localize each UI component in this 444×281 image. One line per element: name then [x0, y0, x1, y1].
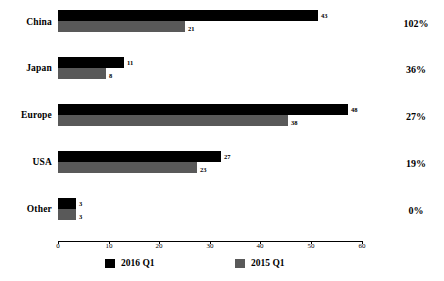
x-axis-tick-label-20: 20: [147, 242, 171, 250]
bar-usa-2016: [58, 151, 221, 162]
growth-percent-other: 0%: [392, 206, 440, 216]
bar-europe-2016: [58, 104, 348, 115]
bar-value-europe-2016: 48: [351, 106, 358, 113]
x-axis-tick-label-50: 50: [299, 242, 323, 250]
legend-item-2016-q1: 2016 Q1: [105, 258, 155, 268]
bar-value-usa-2015: 23: [200, 166, 207, 173]
bar-china-2016: [58, 10, 318, 21]
category-label-japan: Japan: [0, 63, 52, 73]
growth-percent-japan: 36%: [392, 65, 440, 75]
bar-usa-2015: [58, 162, 197, 173]
category-label-europe: Europe: [0, 110, 52, 120]
bar-value-china-2016: 43: [321, 12, 328, 19]
x-axis-tick-label-60: 60: [350, 242, 374, 250]
bar-other-2016: [58, 198, 76, 209]
legend-item-2015-q1: 2015 Q1: [235, 258, 285, 268]
bar-japan-2015: [58, 68, 106, 79]
x-axis-tick-label-10: 10: [97, 242, 121, 250]
category-label-china: China: [0, 17, 52, 27]
x-axis-tick-label-40: 40: [248, 242, 272, 250]
category-label-usa: USA: [0, 157, 52, 167]
chart-legend: 2016 Q1 2015 Q1: [0, 258, 444, 274]
bar-value-china-2015: 21: [188, 25, 195, 32]
bar-europe-2015: [58, 115, 288, 126]
x-axis-tick-label-0: 0: [46, 242, 70, 250]
bar-japan-2016: [58, 57, 124, 68]
legend-label-2016: 2016 Q1: [121, 258, 155, 268]
bar-value-other-2016: 3: [79, 200, 82, 207]
bar-value-japan-2016: 11: [127, 59, 133, 66]
growth-percent-europe: 27%: [392, 112, 440, 122]
legend-swatch-icon-2016: [105, 259, 115, 268]
plot-area: 43 21 11 8 48 38 27 23 3 3: [58, 0, 362, 243]
bar-chart: China Japan Europe USA Other 43 21 11 8 …: [0, 0, 444, 281]
bar-value-japan-2015: 8: [109, 72, 112, 79]
legend-label-2015: 2015 Q1: [251, 258, 285, 268]
legend-swatch-icon-2015: [235, 259, 245, 268]
x-axis-tick-label-30: 30: [198, 242, 222, 250]
growth-percent-usa: 19%: [392, 159, 440, 169]
growth-percent-china: 102%: [392, 19, 440, 29]
bar-china-2015: [58, 21, 185, 32]
bar-other-2015: [58, 209, 76, 220]
category-label-other: Other: [0, 204, 52, 214]
bar-value-other-2015: 3: [79, 213, 82, 220]
bar-value-europe-2015: 38: [291, 119, 298, 126]
bar-value-usa-2016: 27: [224, 153, 231, 160]
